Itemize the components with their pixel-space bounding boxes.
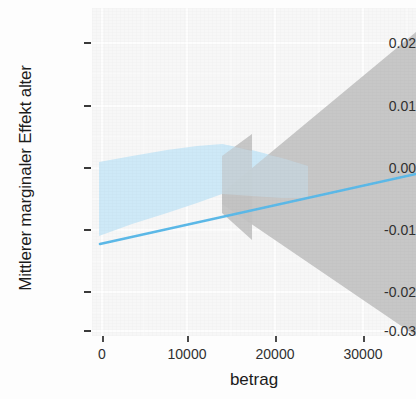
- y-tick-label-5: -0.03: [344, 323, 416, 339]
- x-tick-label-2: 20000: [235, 346, 315, 362]
- x-tick-label-0: 0: [62, 346, 142, 362]
- y-tick-mark-2: [84, 167, 91, 169]
- y-tick-label-3: -0.01: [344, 222, 416, 238]
- y-tick-mark-3: [84, 229, 91, 231]
- x-tick-mark-1: [187, 336, 189, 342]
- chart-container: 0.02 0.01 0.00 -0.01 -0.02 -0.03 0 10000…: [0, 0, 416, 399]
- x-tick-mark-2: [275, 336, 277, 342]
- y-tick-mark-5: [84, 330, 91, 332]
- y-tick-label-4: -0.02: [344, 284, 416, 300]
- x-axis-title: betrag: [92, 370, 416, 390]
- y-axis-title: Mittlerer marginaler Effekt alter: [16, 0, 36, 358]
- y-tick-mark-4: [84, 291, 91, 293]
- y-tick-label-2: 0.00: [344, 160, 416, 176]
- y-tick-mark-1: [84, 105, 91, 107]
- x-tick-label-3: 30000: [323, 346, 403, 362]
- y-tick-mark-0: [84, 42, 91, 44]
- y-tick-label-0: 0.02: [344, 35, 416, 51]
- x-tick-mark-0: [102, 336, 104, 342]
- x-tick-label-1: 10000: [147, 346, 227, 362]
- y-tick-label-1: 0.01: [344, 98, 416, 114]
- x-tick-mark-3: [363, 336, 365, 342]
